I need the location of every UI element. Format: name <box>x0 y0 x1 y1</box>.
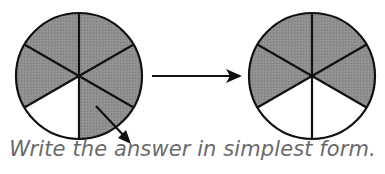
right-fraction-circle <box>249 13 375 139</box>
instruction-caption: Write the answer in simplest form. <box>0 137 385 161</box>
right-arrow-icon <box>152 69 242 83</box>
left-fraction-circle <box>16 13 142 144</box>
